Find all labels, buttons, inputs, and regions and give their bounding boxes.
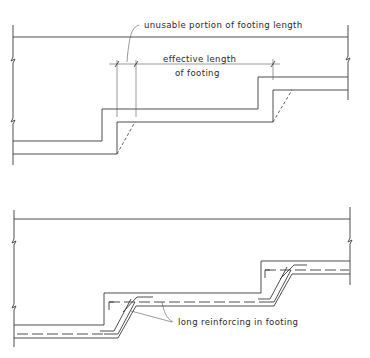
left-boundary-line xyxy=(11,25,15,165)
unusable-leader-line xyxy=(127,25,139,62)
rebar-slope-1c xyxy=(123,297,153,312)
unusable-portion-label: unusable portion of footing length xyxy=(144,20,303,30)
right-boundary-line xyxy=(346,25,350,100)
bottom-panel-reinforcing: long reinforcing in footing xyxy=(12,207,352,347)
rebar-slope-2a xyxy=(258,267,287,299)
reinforcing-leader-2 xyxy=(162,302,173,322)
top-panel-effective-length: unusable portion of footing length effec… xyxy=(11,20,350,165)
slope-line-1 xyxy=(117,122,135,154)
reinforcing-label: long reinforcing in footing xyxy=(178,317,298,327)
rebar-hook-upper xyxy=(265,270,270,278)
slope-line-2 xyxy=(273,90,292,122)
effective-length-label-line2: of footing xyxy=(175,68,220,78)
footing-top-edge-bottom xyxy=(14,261,350,325)
rebar-slope-1a xyxy=(100,299,131,331)
left-boundary-line-bottom xyxy=(12,210,16,347)
rebar-hook-middle xyxy=(109,302,114,310)
footing-bottom-edge-bottom xyxy=(14,274,350,338)
effective-length-label-line1: effective length xyxy=(163,54,236,64)
stepped-footing-diagram: unusable portion of footing length effec… xyxy=(0,0,370,358)
footing-top-edge xyxy=(13,77,348,141)
footing-bottom-edge-steps xyxy=(13,90,348,154)
reinforcing-leader-1 xyxy=(131,311,172,322)
